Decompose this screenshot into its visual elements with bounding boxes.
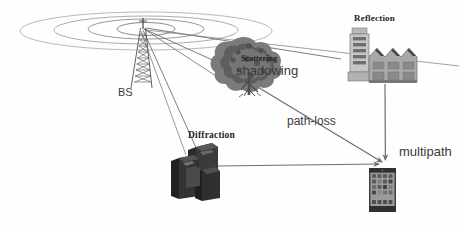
mobile-phone — [0, 0, 459, 232]
label-path-loss: path-loss — [287, 115, 336, 127]
label-reflection: Reflection — [354, 14, 395, 23]
propagation-diagram: Reflection Scattering shadowing BS Diffr… — [0, 0, 459, 232]
label-scattering: Scattering — [241, 55, 277, 63]
phone-body — [369, 168, 396, 212]
label-diffraction: Diffraction — [188, 131, 235, 141]
label-shadowing: shadowing — [236, 64, 298, 77]
label-multipath: multipath — [399, 145, 452, 158]
label-base-station: BS — [118, 87, 133, 98]
